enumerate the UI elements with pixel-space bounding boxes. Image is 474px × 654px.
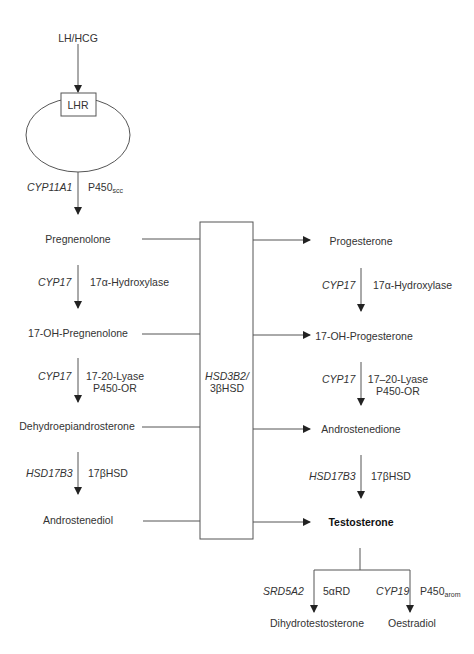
gene-cyp19: CYP19	[376, 585, 409, 597]
gene-cyp17: CYP17	[38, 276, 71, 288]
enzyme-p450arom: P450arom	[420, 585, 460, 601]
central-gene: HSD3B2/	[205, 370, 249, 382]
node-androstenedione: Androstenedione	[321, 423, 400, 435]
node-pregnenolone: Pregnenolone	[45, 233, 110, 245]
gene-cyp11a1: CYP11A1	[27, 181, 72, 193]
gene-srd5a2: SRD5A2	[263, 585, 304, 597]
node-oestradiol: Oestradiol	[388, 617, 436, 629]
enzyme-base: P450	[420, 585, 445, 597]
enzyme-base: P450	[88, 181, 113, 193]
node-dhea: Dehydroepiandrosterone	[19, 420, 135, 432]
enzyme-line2: P450-OR	[368, 385, 428, 397]
receptor-label: LHR	[67, 99, 88, 111]
central-enzyme: HSD3B2/3βHSD	[205, 370, 249, 394]
enzyme-17b-hsd: 17βHSD	[371, 470, 411, 482]
stimulus-label: LH/HCG	[58, 32, 98, 44]
gene-cyp17: CYP17	[322, 279, 355, 291]
node-17oh-pregnenolone: 17-OH-Pregnenolone	[28, 327, 128, 339]
enzyme-sub: arom	[445, 591, 461, 598]
node-testosterone: Testosterone	[328, 516, 393, 528]
enzyme-17-20-lyase: 17-20-LyaseP450-OR	[86, 370, 144, 394]
enzyme-17a-hydroxylase: 17α-Hydroxylase	[373, 279, 452, 291]
enzyme-line2: P450-OR	[86, 382, 144, 394]
enzyme-17b-hsd: 17βHSD	[88, 467, 128, 479]
gene-cyp17: CYP17	[322, 373, 355, 385]
enzyme-5a-rd: 5αRD	[323, 585, 350, 597]
node-dihydrotestosterone: Dihydrotestosterone	[270, 617, 364, 629]
node-17oh-progesterone: 17-OH-Progesterone	[315, 330, 412, 342]
gene-cyp17: CYP17	[38, 370, 71, 382]
enzyme-line1: 17-20-Lyase	[86, 370, 144, 382]
node-androstenediol: Androstenediol	[43, 514, 113, 526]
gene-hsd17b3: HSD17B3	[26, 467, 73, 479]
enzyme-17a-hydroxylase: 17α-Hydroxylase	[90, 276, 169, 288]
gene-hsd17b3: HSD17B3	[309, 470, 356, 482]
enzyme-line1: 17–20-Lyase	[368, 373, 428, 385]
enzyme-17-20-lyase: 17–20-LyaseP450-OR	[368, 373, 428, 397]
node-progesterone: Progesterone	[329, 235, 392, 247]
central-enzyme-name: 3βHSD	[205, 382, 249, 394]
enzyme-sub: scc	[113, 187, 124, 194]
enzyme-p450scc: P450scc	[88, 181, 123, 197]
